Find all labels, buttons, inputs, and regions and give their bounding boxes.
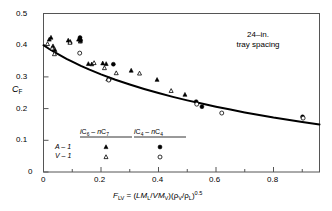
point-iC6nC7V1-8 — [114, 71, 118, 75]
point-iC6nC7V1-6 — [102, 66, 106, 70]
legend-c2-sub1: 4 — [141, 132, 144, 137]
x-title-vm: VM — [153, 191, 165, 200]
legend-row-label-v1: V – 1 — [55, 152, 71, 159]
point-iC4nC4V1-4 — [301, 116, 305, 120]
x-title-f-sub: LV — [118, 195, 124, 201]
y-axis-title: CF — [12, 84, 22, 94]
annotation-tray-spacing-line1: 24–in. — [218, 30, 298, 39]
y-axis-title-sub: F — [19, 88, 23, 95]
x-title-exp: 0.5 — [195, 190, 203, 196]
point-iC6nC7A1-12 — [129, 68, 133, 72]
legend-c2-c1: C — [136, 128, 141, 135]
x-title-lm: LM — [136, 191, 147, 200]
design-curve — [44, 45, 320, 124]
y-tick-label-0.3: 0.3 — [16, 72, 27, 81]
legend-c2-dash: – — [143, 128, 151, 135]
x-title-vm-sub: V — [165, 195, 169, 201]
point-iC6nC7V1-9 — [138, 71, 142, 75]
curve-path — [44, 45, 320, 124]
x-title-rhov-sub: V — [178, 195, 182, 201]
point-iC4nC4V1-0 — [78, 51, 82, 55]
legend-row-label-a1: A – 1 — [55, 143, 71, 150]
point-iC6nC7V1-10 — [169, 89, 173, 93]
legend-c1-c1: C — [82, 128, 87, 135]
y-axis-ticks — [44, 14, 49, 173]
x-title-eq: = ( — [124, 191, 136, 200]
x-tick-label-0.2: 0.2 — [94, 175, 105, 184]
x-title-rhol-sub: L — [189, 195, 192, 201]
x-tick-label-0: 0 — [41, 175, 45, 184]
legend-header-ic4-nc4: iC4 – nC4 — [134, 128, 163, 135]
point-iC4nC4A1-2 — [111, 62, 115, 66]
x-axis-ticks — [44, 167, 303, 172]
x-tick-label-0.8: 0.8 — [267, 175, 278, 184]
legend-markers — [104, 145, 162, 159]
legend-marker-ic4-v1 — [158, 155, 162, 159]
legend-marker-ic6-a1 — [104, 145, 108, 149]
point-iC6nC7A1-13 — [155, 78, 159, 82]
point-iC6nC7V1-0 — [46, 42, 50, 46]
point-iC6nC7A1-14 — [183, 92, 187, 96]
point-iC4nC4A1-5 — [200, 105, 204, 109]
point-iC6nC7A1-11 — [104, 62, 108, 66]
legend-header-ic6-nc7: iC6 – nC7 — [80, 128, 109, 135]
y-tick-label-0.5: 0.5 — [16, 9, 27, 18]
point-iC6nC7A1-10 — [101, 61, 105, 65]
y-axis-title-main: C — [12, 84, 19, 94]
y-tick-label-0.1: 0.1 — [16, 135, 27, 144]
legend-c2-sub2: 4 — [160, 132, 163, 137]
chart-figure: CF 0.5 0.4 0.3 0.2 0.1 0 0 0.2 0.4 0.6 0… — [0, 0, 332, 211]
point-iC4nC4V1-2 — [195, 102, 199, 106]
y-tick-label-0: 0 — [28, 167, 32, 176]
legend-c1-dash: – — [89, 128, 97, 135]
point-iC6nC7A1-8 — [86, 62, 90, 66]
y-tick-label-0.4: 0.4 — [16, 40, 27, 49]
legend-marker-ic6-v1 — [104, 155, 108, 159]
y-tick-label-0.2: 0.2 — [16, 104, 27, 113]
x-tick-label-0.4: 0.4 — [152, 175, 163, 184]
annotation-tray-spacing-line2: tray spacing — [218, 40, 298, 49]
point-iC4nC4A1-1 — [79, 39, 83, 43]
legend-c1-sub1: 6 — [87, 132, 90, 137]
point-iC6nC7V1-5 — [92, 61, 96, 65]
legend-marker-ic4-a1 — [158, 145, 162, 149]
legend-c1-sub2: 7 — [106, 132, 109, 137]
point-iC4nC4V1-3 — [220, 111, 224, 115]
x-axis-title: FLV = (LML/VMV)(ρV/ρL)0.5 — [113, 191, 202, 200]
x-title-lm-sub: L — [147, 195, 150, 201]
point-iC4nC4V1-1 — [107, 78, 111, 82]
x-tick-label-0.6: 0.6 — [209, 175, 220, 184]
